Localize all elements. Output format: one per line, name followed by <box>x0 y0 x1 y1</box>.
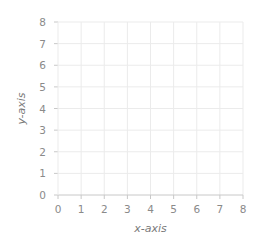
y-tick-label: 3 <box>39 124 46 136</box>
x-tick-label: 8 <box>240 203 247 215</box>
x-tick-label: 0 <box>55 203 62 215</box>
y-tick-label: 1 <box>39 167 46 179</box>
x-tick-label: 6 <box>193 203 200 215</box>
x-tick-label: 2 <box>101 203 108 215</box>
chart: 012345678 012345678 x-axis y-axis <box>0 0 261 245</box>
x-tick-label: 1 <box>78 203 85 215</box>
x-tick-label: 4 <box>147 203 154 215</box>
y-tick-label: 0 <box>39 189 46 201</box>
gridlines <box>58 22 243 195</box>
axes <box>54 22 243 199</box>
y-tick-label: 8 <box>39 16 46 28</box>
y-axis-label: y-axis <box>15 92 28 125</box>
x-tick-label: 5 <box>170 203 177 215</box>
y-tick-labels: 012345678 <box>39 16 46 201</box>
x-tick-label: 7 <box>217 203 224 215</box>
y-tick-label: 4 <box>39 103 46 115</box>
x-axis-label: x-axis <box>133 222 167 235</box>
y-tick-label: 5 <box>39 81 46 93</box>
y-tick-label: 7 <box>39 38 46 50</box>
y-tick-label: 6 <box>39 59 46 71</box>
x-tick-label: 3 <box>124 203 131 215</box>
x-tick-labels: 012345678 <box>55 203 247 215</box>
y-tick-label: 2 <box>39 146 46 158</box>
